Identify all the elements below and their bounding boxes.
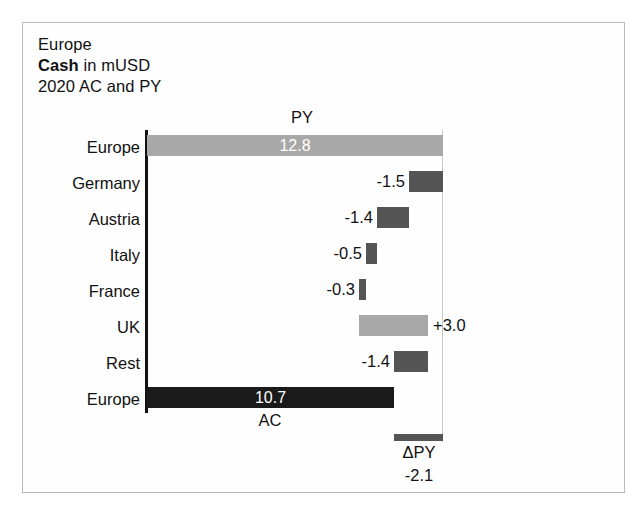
row-label-rest: Rest <box>28 354 140 373</box>
bar-europe-py[interactable]: 12.8 <box>147 135 443 156</box>
bar-italy-delta[interactable] <box>366 243 377 264</box>
column-footer-ac: AC <box>200 411 340 430</box>
bar-rest-delta[interactable] <box>394 351 428 372</box>
bar-value-rest: -1.4 <box>294 351 390 372</box>
row-label-france: France <box>28 282 140 301</box>
scanned-page: Europe Cash in mUSD 2020 AC and PY PY Eu… <box>0 0 644 505</box>
bar-value-italy: -0.5 <box>266 243 362 264</box>
bar-value-france: -0.3 <box>259 279 355 300</box>
delta-py-label: ΔPY <box>374 443 464 462</box>
column-header-py: PY <box>232 108 372 127</box>
bar-uk-delta[interactable] <box>359 315 428 336</box>
waterfall-chart: PY Europe 12.8 Germany -1.5 Austria -1.4… <box>0 0 644 505</box>
bar-austria-delta[interactable] <box>377 207 409 228</box>
bar-germany-delta[interactable] <box>409 171 443 192</box>
bar-value-germany: -1.5 <box>309 171 405 192</box>
bar-delta-py-summary[interactable] <box>394 434 443 441</box>
row-label-germany: Germany <box>28 174 140 193</box>
bar-france-delta[interactable] <box>359 279 366 300</box>
row-label-europe-ac: Europe <box>28 390 140 409</box>
bar-europe-ac[interactable]: 10.7 <box>147 387 394 408</box>
value-axis-line <box>145 130 148 413</box>
row-label-uk: UK <box>28 318 140 337</box>
bar-value-europe-py: 12.8 <box>147 135 443 156</box>
bar-value-austria: -1.4 <box>277 207 373 228</box>
row-label-austria: Austria <box>28 210 140 229</box>
row-label-italy: Italy <box>28 246 140 265</box>
bar-value-uk: +3.0 <box>433 315 529 336</box>
delta-py-value: -2.1 <box>374 466 464 485</box>
row-label-europe-py: Europe <box>28 138 140 157</box>
bar-value-europe-ac: 10.7 <box>147 387 394 408</box>
